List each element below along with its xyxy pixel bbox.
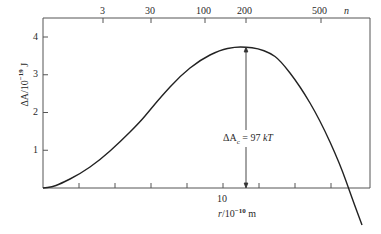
top-tick-label-200: 200 [237,6,252,16]
y-axis-title-unit: J [19,63,30,69]
top-tick-label-500: 500 [312,6,327,16]
top-tick-label-100: 100 [196,6,211,16]
delta-ac-annotation: ΔAc = 97 kT [222,133,274,147]
top-axis-title-n: n [344,6,349,16]
y-tick-label-2: 2 [33,107,38,117]
annotation-equals: = 97 [240,132,263,143]
annotation-kt: kT [263,132,273,143]
x-axis-title-mid: /10 [222,208,235,219]
y-axis-ticks [43,37,48,150]
y-axis-title: ΔA/10−19 J [16,40,29,130]
y-tick-label-4: 4 [33,32,38,42]
top-tick-label-3: 3 [100,6,105,16]
x-tick-label-10: 10 [217,194,227,204]
chart-canvas [0,0,381,234]
top-axis-ticks [103,18,321,23]
y-axis-title-exponent: −19 [17,69,25,80]
top-tick-label-30: 30 [145,6,155,16]
plot-frame [43,18,370,188]
x-axis-title-unit: m [246,208,256,219]
x-axis-title: r/10−10 m [218,206,256,219]
x-axis-title-exponent: −10 [235,207,246,215]
x-axis-ticks [79,183,331,188]
energy-curve [43,47,362,225]
y-axis-title-main: ΔA/10 [19,80,30,106]
arrow-head-down-icon [244,183,248,188]
y-tick-label-1: 1 [33,145,38,155]
y-tick-label-3: 3 [33,69,38,79]
annotation-delta-a: ΔA [223,132,237,143]
delta-ac-arrow [244,47,248,188]
